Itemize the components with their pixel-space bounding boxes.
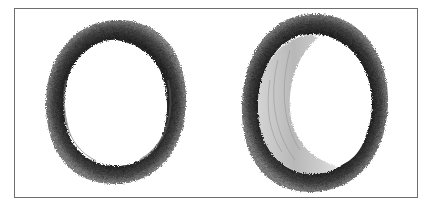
normal-artery-lumen [66,42,165,164]
atherosclerotic-artery-section [242,14,388,192]
normal-artery-section [46,20,186,184]
artery-figure [0,0,431,209]
